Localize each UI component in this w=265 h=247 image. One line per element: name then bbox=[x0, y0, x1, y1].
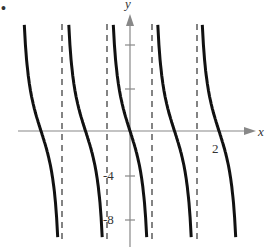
y-axis-arrow-icon bbox=[126, 14, 134, 26]
y-axis-label: y bbox=[123, 0, 131, 11]
x-axis-arrow-icon bbox=[244, 127, 256, 135]
graph-svg: • x y -4 -8 2 bbox=[0, 0, 265, 247]
item-marker: • bbox=[1, 1, 6, 16]
x-axis-label: x bbox=[257, 124, 264, 139]
x-tick-label: 2 bbox=[212, 141, 219, 156]
y-tick-label: -4 bbox=[103, 168, 114, 183]
y-tick-label: -8 bbox=[103, 212, 114, 227]
